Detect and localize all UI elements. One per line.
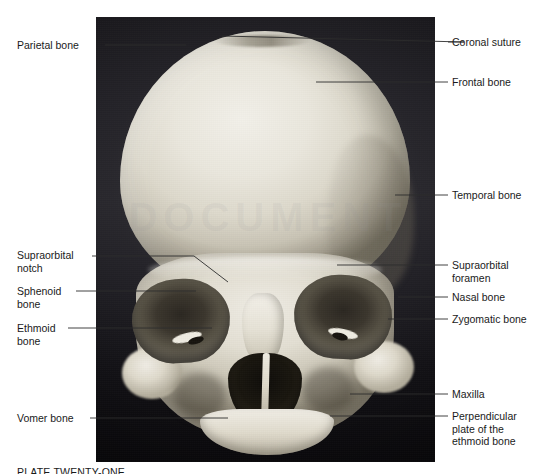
label-supraorbital-notch: Supraorbital notch — [17, 249, 74, 274]
label-parietal-bone: Parietal bone — [17, 39, 79, 52]
label-ethmoid-bone: Ethmoid bone — [17, 322, 56, 347]
label-frontal-bone: Frontal bone — [452, 76, 511, 89]
label-perpendicular-plate: Perpendicular plate of the ethmoid bone — [452, 410, 517, 448]
photo-grain — [96, 17, 435, 462]
label-vomer-bone: Vomer bone — [17, 412, 74, 425]
label-maxilla: Maxilla — [452, 388, 485, 401]
label-sphenoid-bone: Sphenoid bone — [17, 285, 61, 310]
label-nasal-bone: Nasal bone — [452, 291, 505, 304]
anatomy-figure: DOCUMENT Parietal boneSupraorbital notch… — [0, 0, 539, 474]
label-temporal-bone: Temporal bone — [452, 189, 521, 202]
label-coronal-suture: Coronal suture — [452, 36, 521, 49]
figure-caption: PLATE TWENTY-ONE — [17, 466, 125, 474]
skull-photograph: DOCUMENT — [96, 17, 435, 462]
label-supraorbital-foramen: Supraorbital foramen — [452, 259, 509, 284]
label-zygomatic-bone: Zygomatic bone — [452, 313, 527, 326]
